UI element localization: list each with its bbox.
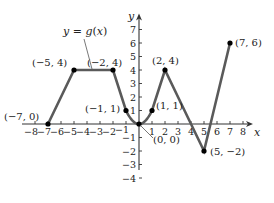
y-tick-label: 6 [130,38,136,49]
point-label: (5, −2) [210,146,245,157]
y-tick-label: 1 [130,105,136,116]
function-graph: xy −8−7−6−5−4−3−2−112345678−4−3−2−112345… [0,0,274,203]
y-tick-label: 7 [130,24,136,35]
point-label: (1, 1) [156,100,183,111]
data-point [227,40,232,45]
y-tick-label: −4 [122,173,136,184]
y-tick-label: −1 [122,132,136,143]
point-label: (−7, 0) [4,111,39,122]
y-tick-label: −3 [122,159,136,170]
x-tick-label: −4 [76,126,90,137]
y-tick-label: 2 [130,92,136,103]
data-point [71,67,76,72]
data-point [149,108,154,113]
x-tick-label: −3 [89,126,103,137]
point-label: (7, 6) [235,37,262,48]
point-label: (−2, 4) [87,57,122,68]
x-tick-label: 8 [240,126,246,137]
data-point [201,148,206,153]
y-tick-label: 3 [130,78,136,89]
point-label: (0, 0) [153,134,180,145]
y-axis-label: y [127,10,135,23]
x-tick-label: −5 [63,126,77,137]
y-tick-label: −2 [122,146,136,157]
data-point [123,108,128,113]
y-tick-label: 4 [130,65,136,76]
x-axis-label: x [254,126,261,139]
data-point [110,67,115,72]
point-label: (2, 4) [152,55,179,66]
x-tick-label: 7 [227,126,233,137]
data-point [45,121,50,126]
function-name-label: y = g(x) [62,25,107,38]
x-tick-label: 6 [214,126,220,137]
point-label: (−5, 4) [32,57,67,68]
x-tick-label: 5 [201,126,207,137]
x-tick-label: −7 [37,126,51,137]
x-tick-label: −8 [24,126,38,137]
x-tick-label: −2 [102,126,116,137]
y-tick-label: 5 [130,51,136,62]
point-label: (−1, 1) [85,103,120,114]
data-point [162,67,167,72]
x-tick-label: −6 [50,126,64,137]
